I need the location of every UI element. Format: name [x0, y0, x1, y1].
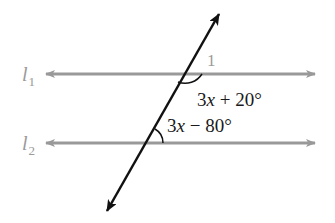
label-l1: l1 — [22, 63, 35, 89]
label-l2: l2 — [22, 132, 35, 158]
angle-arc-lower — [155, 129, 163, 143]
angle-lower-label: 3x − 80° — [167, 115, 232, 136]
parallel-lines-diagram: l1 l2 1 3x + 20° 3x − 80° — [0, 0, 335, 223]
angle-upper-label: 3x + 20° — [197, 89, 262, 110]
transversal-line — [107, 14, 219, 211]
angle-1-label: 1 — [207, 51, 216, 70]
